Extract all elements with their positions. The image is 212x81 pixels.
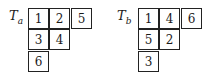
cell: 4 — [49, 29, 70, 50]
cell: 5 — [138, 29, 159, 50]
cell: 2 — [49, 8, 70, 29]
tableau-b-label: Tb — [117, 8, 131, 26]
cell: 6 — [28, 51, 49, 72]
cell: 1 — [138, 8, 159, 29]
cell: 3 — [138, 51, 159, 72]
tableau-a-label: Ta — [9, 8, 23, 26]
cell: 2 — [159, 29, 180, 50]
cell: 5 — [71, 8, 92, 29]
cell: 6 — [181, 8, 202, 29]
cell: 1 — [28, 8, 49, 29]
cell: 4 — [159, 8, 180, 29]
cell: 3 — [28, 29, 49, 50]
